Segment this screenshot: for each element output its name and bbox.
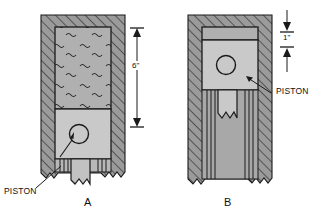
panel-a	[36, 15, 144, 188]
panel-b	[188, 10, 294, 184]
gas-chamber-b	[202, 27, 258, 40]
gas-chamber-a	[55, 27, 111, 109]
wrist-pin-hole-a	[70, 125, 89, 144]
dimension-label-a: 6"	[131, 61, 140, 70]
figure-canvas: PISTON A 6" PISTON B 1"	[0, 0, 326, 216]
piston-diagram-svg	[0, 0, 326, 216]
wrist-pin-hole-b	[217, 56, 236, 75]
dimension-line-a	[130, 28, 144, 127]
connecting-rod-a	[71, 159, 90, 184]
piston-label-b: PISTON	[276, 86, 309, 96]
caption-a: A	[84, 196, 91, 208]
dimension-label-b: 1"	[282, 33, 291, 42]
caption-b: B	[224, 196, 231, 208]
piston-label-a: PISTON	[4, 186, 37, 196]
